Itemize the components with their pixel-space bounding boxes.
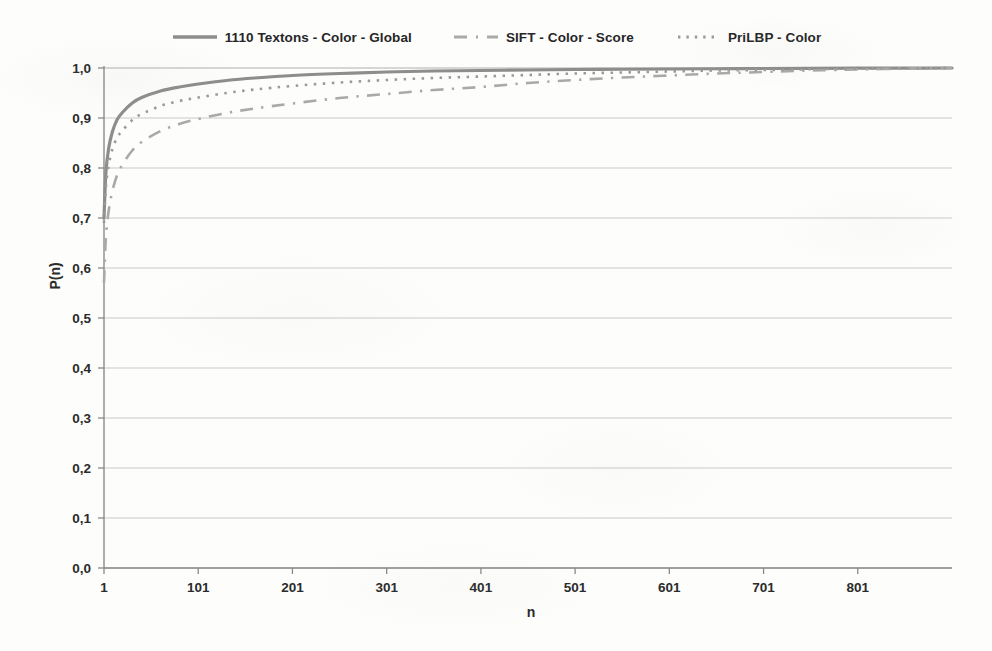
y-axis-title: P(n) bbox=[47, 262, 63, 289]
x-tick-label: 601 bbox=[658, 580, 681, 595]
axis-ticks bbox=[98, 68, 858, 574]
x-axis-title: n bbox=[527, 604, 536, 620]
legend-label-prilbp: PriLBP - Color bbox=[728, 30, 821, 45]
y-tick-label: 0,4 bbox=[72, 361, 91, 376]
y-tick-label: 0,3 bbox=[72, 411, 91, 426]
legend-swatch-solid-icon bbox=[171, 31, 219, 43]
legend-swatch-dotted-icon bbox=[674, 31, 722, 43]
gridlines bbox=[104, 68, 952, 568]
x-tick-label: 801 bbox=[847, 580, 870, 595]
y-tick-label: 1,0 bbox=[72, 61, 91, 76]
series-line-2 bbox=[104, 68, 952, 223]
x-tick-labels: 1101201301401501601701801 bbox=[100, 580, 869, 595]
legend-item-prilbp: PriLBP - Color bbox=[674, 30, 821, 45]
chart-svg: 0,00,10,20,30,40,50,60,70,80,91,0 110120… bbox=[0, 0, 992, 651]
y-tick-label: 0,0 bbox=[72, 561, 91, 576]
chart-plot-area: 0,00,10,20,30,40,50,60,70,80,91,0 110120… bbox=[0, 0, 992, 651]
x-tick-label: 701 bbox=[752, 580, 775, 595]
series-line-1 bbox=[104, 68, 952, 283]
legend-item-sift: SIFT - Color - Score bbox=[452, 30, 634, 45]
y-tick-label: 0,2 bbox=[72, 461, 91, 476]
axis-lines bbox=[104, 66, 952, 568]
data-series bbox=[104, 68, 952, 283]
y-tick-label: 0,5 bbox=[72, 311, 91, 326]
series-line-0 bbox=[104, 68, 952, 218]
legend-label-textons: 1110 Textons - Color - Global bbox=[225, 30, 412, 45]
x-tick-label: 101 bbox=[187, 580, 210, 595]
x-tick-label: 501 bbox=[564, 580, 587, 595]
legend-item-textons: 1110 Textons - Color - Global bbox=[171, 30, 412, 45]
x-tick-label: 401 bbox=[470, 580, 493, 595]
chart-legend: 1110 Textons - Color - Global SIFT - Col… bbox=[0, 26, 992, 48]
x-tick-label: 301 bbox=[375, 580, 398, 595]
x-tick-label: 1 bbox=[100, 580, 108, 595]
y-tick-label: 0,6 bbox=[72, 261, 91, 276]
legend-swatch-dashdot-icon bbox=[452, 31, 500, 43]
x-tick-label: 201 bbox=[281, 580, 304, 595]
y-tick-label: 0,8 bbox=[72, 161, 91, 176]
y-tick-label: 0,7 bbox=[72, 211, 91, 226]
y-tick-label: 0,9 bbox=[72, 111, 91, 126]
legend-label-sift: SIFT - Color - Score bbox=[506, 30, 634, 45]
y-tick-label: 0,1 bbox=[72, 511, 91, 526]
y-tick-labels: 0,00,10,20,30,40,50,60,70,80,91,0 bbox=[72, 61, 91, 576]
